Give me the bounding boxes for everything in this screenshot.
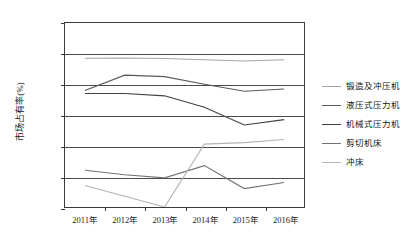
x-axis-tick-mark	[145, 207, 146, 211]
legend-color-swatch	[322, 162, 341, 163]
series-line	[85, 94, 284, 125]
y-axis-title: 市场占有率(%)	[13, 52, 26, 172]
x-axis-tick-mark	[226, 207, 227, 211]
series-lines	[65, 23, 304, 207]
chart-container: 市场占有率(%) 0.0020.0040.0060.0080.00100.001…	[0, 0, 414, 247]
legend-item[interactable]: 液压式压力机	[322, 96, 414, 115]
y-axis-tick-mark	[61, 209, 65, 210]
legend-color-swatch	[322, 86, 341, 87]
series-line	[85, 58, 284, 61]
x-axis-tick-mark	[266, 207, 267, 211]
legend-item-label: 液压式压力机	[346, 101, 400, 110]
legend-item-label: 锻造及冲压机	[346, 82, 400, 91]
x-axis-tick-mark	[105, 207, 106, 211]
x-axis-tick-label: 2016年	[256, 213, 316, 225]
legend-item[interactable]: 机械式压力机	[322, 115, 414, 134]
legend-item-label: 剪切机床	[346, 139, 382, 148]
legend-color-swatch	[322, 143, 341, 144]
legend-color-swatch	[322, 105, 341, 106]
legend-color-swatch	[322, 124, 341, 125]
series-line	[85, 75, 284, 91]
legend-item[interactable]: 锻造及冲压机	[322, 77, 414, 96]
series-line	[85, 166, 284, 189]
x-axis-tick-mark	[186, 207, 187, 211]
legend-item-label: 机械式压力机	[346, 120, 400, 129]
legend-item-label: 冲床	[346, 158, 364, 167]
legend-item[interactable]: 冲床	[322, 153, 414, 172]
plot-area: 0.0020.0040.0060.0080.00100.00120.00 201…	[64, 22, 305, 208]
legend-item[interactable]: 剪切机床	[322, 134, 414, 153]
legend: 锻造及冲压机液压式压力机机械式压力机剪切机床冲床	[322, 77, 414, 172]
